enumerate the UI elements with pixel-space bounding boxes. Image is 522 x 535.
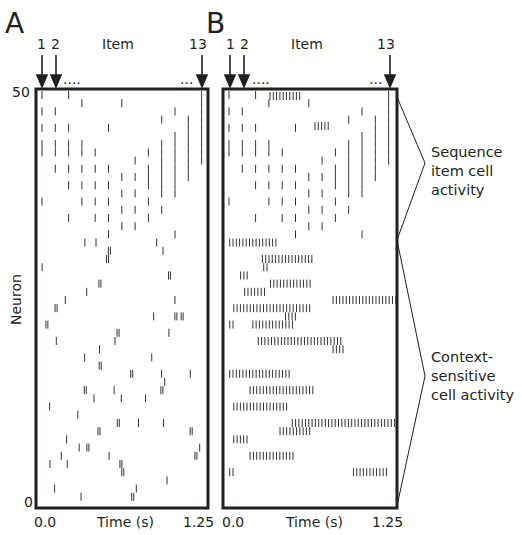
panel-b-frame [223,89,397,508]
panel-a-spikes [42,91,202,501]
brackets [397,97,425,506]
arrows [37,55,395,87]
panel-b-spikes [229,91,396,476]
panel-a-frame [36,89,208,508]
raster-graphics [0,0,522,535]
